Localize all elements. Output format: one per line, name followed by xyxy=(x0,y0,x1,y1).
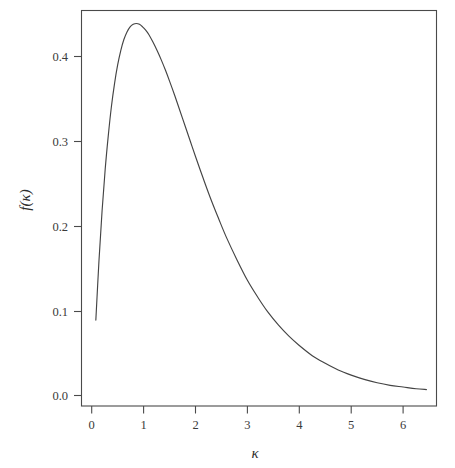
x-tick-label-1: 1 xyxy=(140,418,146,432)
y-axis-title: f(κ) xyxy=(17,189,34,210)
y-tick-label-2: 0.2 xyxy=(52,220,68,234)
x-axis-title: κ xyxy=(251,445,259,461)
x-tick-label-2: 2 xyxy=(192,418,198,432)
density-plot-svg: 0.0 0.1 0.2 0.3 0.4 0 1 2 3 4 5 6 κ xyxy=(0,0,455,468)
plot-frame xyxy=(82,11,437,407)
y-axis-ticks xyxy=(74,57,82,396)
y-tick-label-3: 0.3 xyxy=(52,135,68,149)
x-tick-label-6: 6 xyxy=(400,418,406,432)
y-tick-label-4: 0.4 xyxy=(52,50,68,64)
x-tick-label-4: 4 xyxy=(296,418,303,432)
y-tick-label-1: 0.1 xyxy=(52,305,68,319)
y-axis-tick-labels: 0.0 0.1 0.2 0.3 0.4 xyxy=(52,50,68,403)
x-axis-tick-labels: 0 1 2 3 4 5 6 xyxy=(89,418,407,432)
x-tick-label-5: 5 xyxy=(348,418,354,432)
density-curve xyxy=(96,23,427,389)
x-tick-label-3: 3 xyxy=(244,418,250,432)
y-tick-label-0: 0.0 xyxy=(52,389,68,403)
chart-figure: 0.0 0.1 0.2 0.3 0.4 0 1 2 3 4 5 6 κ xyxy=(0,0,455,468)
x-axis-ticks xyxy=(92,406,403,414)
x-tick-label-0: 0 xyxy=(89,418,95,432)
